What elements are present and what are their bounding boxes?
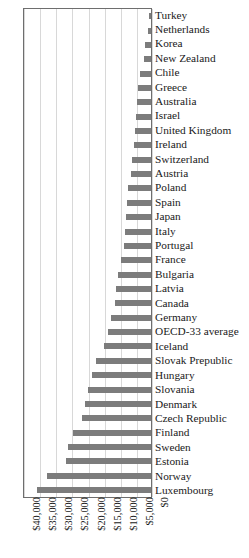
category-label: Turkey — [155, 8, 249, 22]
x-tick-label: $0 — [160, 497, 170, 557]
bar — [134, 142, 151, 148]
category-label: Japan — [155, 210, 249, 224]
chart-bar-row — [24, 411, 151, 425]
bar — [121, 257, 151, 263]
chart-bar-row — [24, 181, 151, 195]
bar — [126, 214, 151, 220]
bar — [136, 114, 151, 120]
chart-bar-row — [24, 38, 151, 52]
category-label: Sweden — [155, 440, 249, 454]
bar — [144, 56, 151, 62]
category-label: Greece — [155, 80, 249, 94]
category-label: Israel — [155, 109, 249, 123]
category-label: Poland — [155, 181, 249, 195]
category-label: OECD-33 average — [155, 325, 249, 339]
x-tick-label: $20,000 — [97, 497, 107, 557]
bar — [111, 315, 151, 321]
bar — [116, 286, 151, 292]
category-label: Norway — [155, 469, 249, 483]
chart-bar-row — [24, 311, 151, 325]
x-tick-label: $15,000 — [113, 497, 123, 557]
chart-bar-row — [24, 110, 151, 124]
chart-bar-row — [24, 52, 151, 66]
chart-bar-row — [24, 124, 151, 138]
chart-bar-row — [24, 138, 151, 152]
chart-bar-row — [24, 66, 151, 80]
category-label: Hungary — [155, 368, 249, 382]
chart-bar-row — [24, 95, 151, 109]
category-label: Finland — [155, 426, 249, 440]
chart-bar-row — [24, 196, 151, 210]
category-label: Latvia — [155, 282, 249, 296]
chart-bar-row — [24, 167, 151, 181]
bar — [47, 473, 151, 479]
category-label: Slovania — [155, 383, 249, 397]
category-label: Iceland — [155, 339, 249, 353]
category-label: Austria — [155, 166, 249, 180]
chart-bar-row — [24, 368, 151, 382]
chart-bars — [24, 9, 151, 497]
chart-bar-row — [24, 425, 151, 439]
chart-bar-row — [24, 81, 151, 95]
chart-bar-row — [24, 282, 151, 296]
bar — [85, 401, 151, 407]
category-label: Portugal — [155, 239, 249, 253]
bar — [132, 157, 151, 163]
category-label: Spain — [155, 195, 249, 209]
category-label: Estonia — [155, 455, 249, 469]
chart-category-labels: TurkeyNetherlandsKoreaNew ZealandChileGr… — [155, 8, 249, 498]
bar — [125, 229, 151, 235]
x-tick-label: $30,000 — [64, 497, 74, 557]
chart-bar-row — [24, 23, 151, 37]
bar — [88, 387, 151, 393]
category-label: Denmark — [155, 397, 249, 411]
category-label: Switzerland — [155, 152, 249, 166]
chart-bar-row — [24, 296, 151, 310]
bar — [124, 243, 151, 249]
bar — [118, 272, 151, 278]
chart-bar-row — [24, 325, 151, 339]
bar — [140, 71, 151, 77]
bar — [92, 372, 151, 378]
x-tick-label: $25,000 — [80, 497, 90, 557]
category-label: Netherlands — [155, 22, 249, 36]
category-label: United Kingdom — [155, 123, 249, 137]
category-label: Slovak Prepublic — [155, 354, 249, 368]
x-tick-label: $5,000 — [145, 497, 155, 557]
chart-bar-row — [24, 354, 151, 368]
bar — [37, 487, 151, 493]
x-tick-label: $40,000 — [32, 497, 42, 557]
bar — [135, 128, 151, 134]
bar — [128, 185, 151, 191]
bar — [96, 358, 151, 364]
chart-bar-row — [24, 153, 151, 167]
bar — [148, 28, 151, 34]
x-tick-label: $10,000 — [129, 497, 139, 557]
bar — [104, 343, 151, 349]
chart-bar-row — [24, 382, 151, 396]
category-label: Germany — [155, 311, 249, 325]
category-label: New Zealand — [155, 51, 249, 65]
bar — [149, 13, 151, 19]
chart-bar-row — [24, 469, 151, 483]
chart-bar-row — [24, 9, 151, 23]
bar — [131, 171, 151, 177]
chart-bar-row — [24, 253, 151, 267]
bar — [145, 42, 151, 48]
category-label: Luxembourg — [155, 483, 249, 497]
category-label: Korea — [155, 37, 249, 51]
chart-bar-row — [24, 397, 151, 411]
chart-plot-area — [23, 8, 152, 498]
bar — [137, 99, 151, 105]
bar — [115, 300, 151, 306]
chart-bar-row — [24, 454, 151, 468]
category-label: Chile — [155, 66, 249, 80]
category-label: France — [155, 253, 249, 267]
category-label: Canada — [155, 296, 249, 310]
gridline — [152, 9, 153, 497]
chart-caption-container: OECD average. The US is not shown as it … — [0, 0, 20, 558]
bar — [66, 458, 151, 464]
bar — [108, 329, 151, 335]
category-label: Italy — [155, 224, 249, 238]
chart-bar-row — [24, 440, 151, 454]
